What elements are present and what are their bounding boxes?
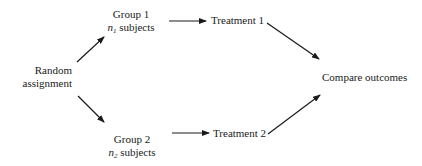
group2-title: Group 2 xyxy=(101,133,163,146)
arrow-random-to-group2 xyxy=(78,96,104,122)
node-random-assignment: Random assignment xyxy=(10,64,72,90)
node-treatment-1: Treatment 1 xyxy=(211,14,264,27)
group1-count-suffix: subjects xyxy=(116,21,154,33)
node-compare-outcomes: Compare outcomes xyxy=(322,71,407,84)
experiment-design-diagram: Random assignment Group 1 n1 subjects Gr… xyxy=(0,0,422,166)
node-treatment-2: Treatment 2 xyxy=(213,127,266,140)
group2-count-suffix: subjects xyxy=(117,146,155,158)
arrow-treatment2-to-compare xyxy=(268,95,320,134)
random-line1: Random xyxy=(10,64,72,77)
arrow-treatment1-to-compare xyxy=(267,23,319,59)
group1-title: Group 1 xyxy=(100,8,162,21)
arrow-random-to-group1 xyxy=(77,37,104,62)
group2-count: n2 subjects xyxy=(101,146,163,163)
group1-count: n1 subjects xyxy=(100,21,162,38)
node-group-2: Group 2 n2 subjects xyxy=(101,133,163,163)
random-line2: assignment xyxy=(10,77,72,90)
node-group-1: Group 1 n1 subjects xyxy=(100,8,162,38)
